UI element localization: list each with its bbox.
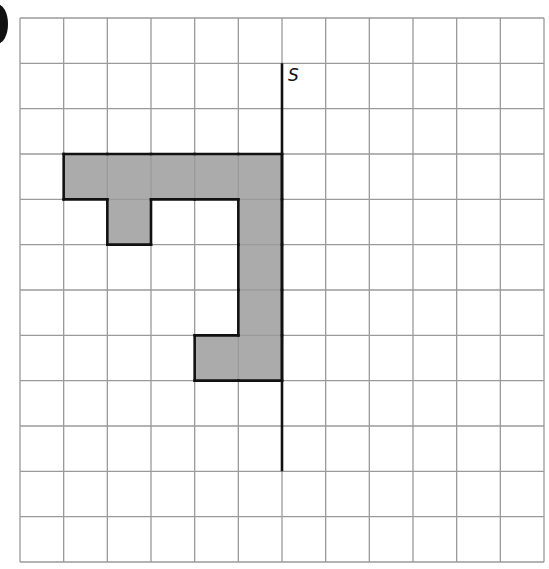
shaded-cell — [195, 335, 239, 380]
shaded-cell — [238, 154, 282, 199]
shaded-cell — [238, 290, 282, 335]
shaded-cell — [195, 154, 239, 199]
shaded-cell — [238, 335, 282, 380]
grid-figure: S — [0, 0, 549, 569]
shaded-cell — [151, 154, 195, 199]
shaded-cell — [64, 154, 108, 199]
shaded-cell — [107, 199, 151, 244]
square-grid — [0, 0, 549, 569]
shaded-cell — [238, 199, 282, 244]
shaded-cell — [107, 154, 151, 199]
shaded-cell — [238, 245, 282, 290]
mirror-line-label: S — [288, 65, 299, 85]
